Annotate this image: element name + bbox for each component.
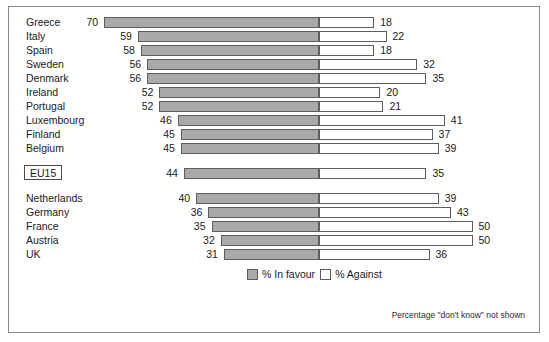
bar-against [319, 115, 445, 126]
row-label-germany: Germany [26, 205, 69, 219]
value-against: 50 [479, 233, 491, 247]
chart-frame: Greece7018Italy5922Spain5818Sweden5632De… [8, 6, 540, 333]
row-label-luxembourg: Luxembourg [26, 113, 84, 127]
value-in-favour: 70 [70, 15, 98, 29]
value-against: 50 [479, 219, 491, 233]
bar-in-favour [196, 193, 319, 204]
bar-in-favour [159, 87, 319, 98]
row-label-netherlands: Netherlands [26, 191, 83, 205]
chart-row: France3550 [9, 219, 539, 233]
value-in-favour: 52 [125, 99, 153, 113]
bar-in-favour [208, 207, 319, 218]
bar-in-favour [178, 115, 319, 126]
bar-in-favour [181, 143, 319, 154]
row-label-denmark: Denmark [26, 71, 69, 85]
value-against: 32 [423, 57, 435, 71]
bar-in-favour [184, 168, 319, 179]
diverging-bar-plot: Greece7018Italy5922Spain5818Sweden5632De… [9, 7, 539, 332]
value-against: 21 [389, 99, 401, 113]
value-against: 36 [436, 247, 448, 261]
legend-item-in-favour: % In favour [247, 268, 315, 281]
bar-in-favour [141, 45, 319, 56]
bar-in-favour [221, 235, 319, 246]
value-against: 18 [380, 15, 392, 29]
value-in-favour: 56 [113, 57, 141, 71]
bar-against [319, 45, 374, 56]
value-in-favour: 36 [174, 205, 202, 219]
bar-against [319, 207, 451, 218]
chart-row: EU154435 [9, 166, 539, 180]
legend-item-against: % Against [320, 268, 382, 281]
chart-row: Netherlands4039 [9, 191, 539, 205]
bar-against [319, 31, 387, 42]
value-in-favour: 56 [113, 71, 141, 85]
value-against: 41 [451, 113, 463, 127]
legend-swatch-against-icon [320, 269, 331, 280]
bar-against [319, 73, 426, 84]
bar-against [319, 168, 426, 179]
bar-in-favour [212, 221, 319, 232]
value-against: 18 [380, 43, 392, 57]
row-label-portugal: Portugal [26, 99, 65, 113]
row-label-austria: Austria [26, 233, 59, 247]
bar-against [319, 235, 473, 246]
bar-in-favour [159, 101, 319, 112]
bar-against [319, 193, 439, 204]
value-against: 43 [457, 205, 469, 219]
value-against: 22 [393, 29, 405, 43]
chart-row: Austria3250 [9, 233, 539, 247]
value-in-favour: 44 [150, 166, 178, 180]
row-label-uk: UK [26, 247, 41, 261]
chart-row: Belgium4539 [9, 141, 539, 155]
row-label-belgium: Belgium [26, 141, 64, 155]
chart-legend: % In favour % Against [247, 268, 382, 281]
row-label-finland: Finland [26, 127, 60, 141]
bar-in-favour [147, 59, 319, 70]
row-label-france: France [26, 219, 59, 233]
row-label-italy: Italy [26, 29, 45, 43]
chart-row: Spain5818 [9, 43, 539, 57]
value-against: 37 [439, 127, 451, 141]
value-against: 35 [432, 166, 444, 180]
value-in-favour: 32 [187, 233, 215, 247]
chart-row: Italy5922 [9, 29, 539, 43]
bar-against [319, 129, 433, 140]
bar-in-favour [147, 73, 319, 84]
value-in-favour: 45 [147, 141, 175, 155]
chart-page: Greece7018Italy5922Spain5818Sweden5632De… [0, 0, 549, 342]
chart-row: Ireland5220 [9, 85, 539, 99]
chart-row: UK3136 [9, 247, 539, 261]
value-in-favour: 45 [147, 127, 175, 141]
value-against: 20 [386, 85, 398, 99]
legend-swatch-in-favour-icon [247, 269, 258, 280]
value-in-favour: 46 [144, 113, 172, 127]
chart-footnote: Percentage "don't know" not shown [392, 310, 525, 320]
chart-row: Denmark5635 [9, 71, 539, 85]
bar-in-favour [104, 17, 319, 28]
value-against: 39 [445, 141, 457, 155]
value-in-favour: 52 [125, 85, 153, 99]
bar-in-favour [224, 249, 319, 260]
chart-row: Germany3643 [9, 205, 539, 219]
row-label-ireland: Ireland [26, 85, 58, 99]
value-in-favour: 59 [104, 29, 132, 43]
legend-label-in-favour: % In favour [262, 268, 315, 281]
chart-row: Finland4537 [9, 127, 539, 141]
chart-row: Sweden5632 [9, 57, 539, 71]
bar-against [319, 59, 417, 70]
bar-against [319, 221, 473, 232]
chart-row: Greece7018 [9, 15, 539, 29]
value-in-favour: 35 [178, 219, 206, 233]
bar-against [319, 143, 439, 154]
bar-in-favour [138, 31, 319, 42]
bar-against [319, 249, 430, 260]
value-against: 35 [432, 71, 444, 85]
bar-in-favour [181, 129, 319, 140]
bar-against [319, 87, 380, 98]
chart-row: Portugal5221 [9, 99, 539, 113]
bar-against [319, 101, 383, 112]
value-in-favour: 40 [162, 191, 190, 205]
legend-label-against: % Against [335, 268, 382, 281]
value-in-favour: 58 [107, 43, 135, 57]
row-label-greece: Greece [26, 15, 60, 29]
